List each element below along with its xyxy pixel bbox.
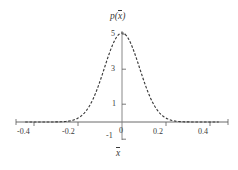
y-tick-label-5: 5: [111, 29, 115, 38]
chart-canvas: [0, 0, 238, 170]
x-axis-title: x: [116, 148, 120, 158]
y-tick-label-1: 1: [112, 99, 116, 108]
y-tick-marks: [122, 34, 126, 139]
x-tick-label-pos-0-2: 0.2: [153, 127, 163, 136]
y-axis-title: p(x): [110, 11, 125, 21]
x-tick-label-neg-0-4: -0.4: [17, 127, 30, 136]
y-axis-title-var: x: [118, 11, 122, 21]
x-tick-label-pos-0-4: 0.4: [198, 127, 208, 136]
chart-figure: p(x) x 5 3 1 -1 0 -0.4 -0.2 0.2 0.4: [0, 0, 238, 170]
y-tick-label-neg-1: -1: [106, 131, 113, 140]
x-axis-title-var: x: [116, 148, 120, 158]
x-tick-label-origin: 0: [119, 126, 123, 135]
x-tick-label-neg-0-2: -0.2: [62, 127, 75, 136]
y-tick-label-3: 3: [111, 64, 115, 73]
